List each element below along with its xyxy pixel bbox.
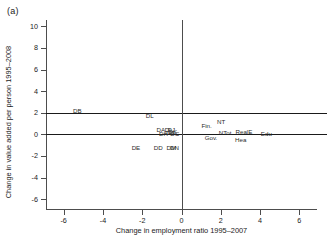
x-tick-label: -6 [51,217,77,224]
y-tick-label: 0 [14,131,38,138]
scatter-point-label: RealE [236,129,253,135]
scatter-point-label: DL [146,113,154,119]
x-tick-label: 2 [208,217,234,224]
y-tick-label: -6 [14,196,38,203]
reference-line-vertical [182,20,183,209]
x-tick-label: 0 [169,217,195,224]
x-tick-mark [64,210,65,215]
scatter-point-label: DC [170,131,179,137]
x-axis-title: Change in employment ratio 1995–2007 [46,226,317,235]
y-tick-label: 8 [14,44,38,51]
x-tick-mark [103,210,104,215]
reference-line-horizontal [46,113,327,114]
y-axis-spine [46,20,47,210]
scatter-point-label: DE [132,145,141,151]
y-axis-title: Change in value added per person 1995–20… [2,0,16,244]
y-tick-mark [41,48,46,49]
x-tick-label: -4 [90,217,116,224]
y-tick-label: 2 [14,109,38,116]
y-tick-mark [41,91,46,92]
y-tick-label: 10 [14,23,38,30]
y-tick-mark [41,156,46,157]
y-tick-mark [41,26,46,27]
y-tick-label: 6 [14,66,38,73]
reference-line-horizontal [46,134,327,135]
figure-panel-a: (a) Change in value added per person 199… [0,0,327,244]
x-tick-label: 4 [247,217,273,224]
y-tick-mark [41,70,46,71]
x-tick-mark [182,210,183,215]
scatter-point-label: Fin. [201,123,211,129]
y-tick-label: -4 [14,174,38,181]
scatter-point-label: Edu [261,131,272,137]
x-tick-mark [142,210,143,215]
scatter-point-label: NT [217,119,225,125]
y-tick-mark [41,178,46,179]
x-tick-label: 6 [286,217,312,224]
scatter-point-label: Gov. [205,135,218,141]
x-tick-mark [260,210,261,215]
scatter-point-label: NTot [219,130,232,136]
y-tick-mark [41,199,46,200]
x-tick-mark [299,210,300,215]
scatter-point-label: Hea [235,137,246,143]
y-tick-label: -2 [14,152,38,159]
scatter-point-label: DN [170,145,179,151]
x-tick-mark [221,210,222,215]
scatter-point-label: DD [154,145,163,151]
y-tick-label: 4 [14,88,38,95]
x-tick-label: -2 [129,217,155,224]
scatter-point-label: DB [73,108,82,114]
